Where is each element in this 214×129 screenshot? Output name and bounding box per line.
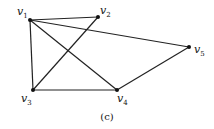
edge-v2-v3 <box>33 17 98 90</box>
edge-v1-v3 <box>30 20 33 90</box>
vertex-label-v5: v5 <box>194 43 205 58</box>
graph-diagram: v1v2v3v4v5 (c) <box>0 0 214 129</box>
edges-group <box>30 17 189 90</box>
vertex-label-v3: v3 <box>21 92 32 107</box>
edge-v1-v5 <box>30 20 189 47</box>
vertex-label-v1: v1 <box>17 5 28 20</box>
vertex-v3 <box>31 88 35 92</box>
vertices-group <box>28 15 191 92</box>
figure-caption: (c) <box>100 111 114 122</box>
edge-v1-v2 <box>30 17 98 20</box>
edge-v4-v5 <box>117 47 189 90</box>
vertex-v5 <box>187 45 191 49</box>
vertex-v1 <box>28 18 32 22</box>
vertex-label-v4: v4 <box>117 92 128 107</box>
vertex-label-v2: v2 <box>100 4 111 19</box>
